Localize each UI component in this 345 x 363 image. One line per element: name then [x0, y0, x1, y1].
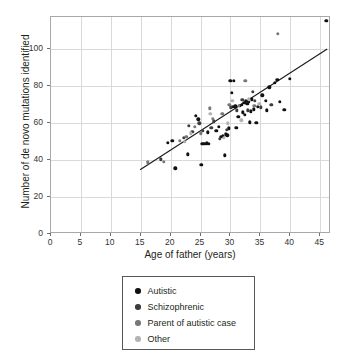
y-tick-label: 0: [38, 228, 43, 238]
data-point: [171, 139, 174, 142]
x-tick: [229, 233, 230, 236]
gridline-horizontal: [51, 49, 329, 50]
data-point: [220, 112, 223, 115]
legend-marker-icon: [135, 288, 141, 294]
data-point: [178, 139, 181, 142]
x-axis-title: Age of father (years): [50, 249, 330, 260]
x-tick-label: 0: [48, 237, 53, 247]
data-point: [278, 100, 281, 103]
data-point: [253, 99, 256, 102]
data-point: [259, 106, 262, 109]
data-point: [260, 94, 263, 97]
gridline-horizontal: [51, 123, 329, 124]
data-point: [207, 142, 210, 145]
y-tick: [47, 48, 50, 49]
data-point: [199, 132, 202, 135]
data-point: [208, 107, 211, 110]
data-point: [214, 129, 217, 132]
data-point: [146, 161, 149, 164]
data-point: [325, 19, 328, 22]
x-tick-label: 15: [135, 237, 144, 247]
x-tick-label: 30: [225, 237, 234, 247]
legend-item-parent-of-autistic-case: Parent of autistic case: [135, 315, 254, 331]
y-tick-label: 100: [29, 43, 43, 53]
data-point: [247, 100, 250, 103]
legend-marker-icon: [135, 304, 141, 310]
gridline-horizontal: [51, 197, 329, 198]
x-tick-label: 10: [105, 237, 114, 247]
gridline-horizontal: [51, 86, 329, 87]
x-tick: [200, 233, 201, 236]
data-point: [244, 79, 247, 82]
legend-item-other: Other: [135, 331, 254, 347]
data-point: [218, 137, 221, 140]
data-point: [231, 99, 234, 102]
x-tick: [110, 233, 111, 236]
x-tick: [80, 233, 81, 236]
data-point: [186, 153, 189, 156]
x-tick-label: 5: [78, 237, 83, 247]
data-point: [183, 140, 186, 143]
data-point: [189, 132, 192, 135]
plot-area: [50, 16, 330, 233]
data-point: [222, 136, 225, 139]
data-point: [174, 167, 177, 170]
y-tick: [47, 159, 50, 160]
data-point: [232, 79, 235, 82]
gridline-horizontal: [51, 160, 329, 161]
legend-item-schizophrenic: Schizophrenic: [135, 299, 254, 315]
y-tick-label: 60: [34, 117, 43, 127]
data-point: [276, 32, 279, 35]
y-tick-label: 20: [34, 191, 43, 201]
data-point: [235, 126, 238, 129]
data-point: [193, 125, 196, 128]
x-tick: [289, 233, 290, 236]
data-point: [187, 124, 190, 127]
legend-item-label: Autistic: [148, 286, 177, 297]
y-tick: [47, 85, 50, 86]
data-point: [166, 141, 169, 144]
data-point: [226, 121, 229, 124]
data-point: [283, 108, 286, 111]
data-point: [206, 131, 209, 134]
data-point: [243, 113, 246, 116]
legend-item-autistic: Autistic: [135, 283, 254, 299]
data-point: [162, 160, 165, 163]
data-point: [185, 135, 188, 138]
data-point: [229, 106, 232, 109]
x-tick: [170, 233, 171, 236]
x-tick: [319, 233, 320, 236]
legend-item-label: Other: [148, 334, 171, 345]
data-point: [268, 85, 271, 88]
scatter-plot-figure: 051015202530354045020406080100 Age of fa…: [0, 0, 345, 363]
x-tick: [259, 233, 260, 236]
x-tick-label: 25: [195, 237, 204, 247]
data-point: [240, 119, 243, 122]
data-point: [273, 81, 276, 84]
data-point: [235, 109, 238, 112]
y-tick-label: 40: [34, 154, 43, 164]
legend-marker-icon: [135, 320, 141, 326]
x-tick-label: 35: [255, 237, 264, 247]
data-point: [275, 78, 278, 81]
data-point: [252, 108, 255, 111]
y-tick-label: 80: [34, 80, 43, 90]
data-point: [199, 163, 202, 166]
legend-item-label: Parent of autistic case: [148, 318, 237, 329]
y-axis-title: Number of de novo mutations identified: [20, 12, 31, 232]
legend-marker-icon: [135, 336, 141, 342]
data-point: [225, 128, 228, 131]
data-point: [223, 154, 226, 157]
y-tick: [47, 233, 50, 234]
legend: Autistic Schizophrenic Parent of autisti…: [122, 276, 255, 350]
y-tick: [47, 122, 50, 123]
data-point: [265, 109, 268, 112]
data-point: [251, 90, 254, 93]
data-point: [217, 125, 220, 128]
x-tick-label: 20: [165, 237, 174, 247]
x-tick: [50, 233, 51, 236]
data-point: [208, 112, 211, 115]
x-tick-label: 45: [314, 237, 323, 247]
x-tick: [140, 233, 141, 236]
data-point: [226, 133, 229, 136]
